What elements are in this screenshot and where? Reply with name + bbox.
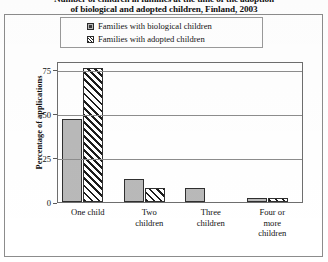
y-tick-mark	[53, 70, 57, 71]
bars-layer	[58, 63, 302, 202]
legend-item-biological: Families with biological children	[61, 20, 262, 33]
y-tick-mark	[53, 158, 57, 159]
gridline	[58, 159, 302, 160]
bar-adopted	[145, 188, 165, 202]
bar-adopted	[268, 198, 288, 202]
legend-label-biological: Families with biological children	[98, 21, 212, 32]
x-tick-label: One child	[57, 207, 119, 218]
chart-title: Number of children in families at the ti…	[0, 0, 328, 14]
y-tick-mark	[53, 114, 57, 115]
legend-label-adopted: Families with adopted children	[98, 34, 205, 45]
y-tick-label: 50	[11, 110, 51, 120]
bar-adopted	[83, 68, 103, 202]
x-tick-label: Threechildren	[180, 207, 242, 228]
y-tick-mark	[53, 203, 57, 204]
y-tick-label: 25	[11, 154, 51, 164]
chart-title-line-2: of biological and adopted children, Finl…	[0, 4, 328, 14]
plot-area	[57, 62, 303, 203]
hatched-swatch-icon	[87, 36, 94, 43]
bar-biological	[62, 119, 82, 202]
gridline	[58, 71, 302, 72]
solid-swatch-icon	[87, 23, 94, 30]
bar-chart-figure: Number of children in families at the ti…	[0, 0, 328, 262]
y-tick-label: 0	[11, 198, 51, 208]
chart-legend: Families with biological children Famili…	[60, 17, 263, 48]
legend-item-adopted: Families with adopted children	[61, 33, 262, 46]
bar-biological	[247, 198, 267, 202]
x-tick-label: Twochildren	[119, 207, 181, 228]
x-tick-label: Four ormorechildren	[242, 207, 304, 239]
bar-biological	[185, 188, 205, 202]
bar-biological	[124, 179, 144, 202]
y-tick-label: 75	[11, 66, 51, 76]
gridline	[58, 115, 302, 116]
